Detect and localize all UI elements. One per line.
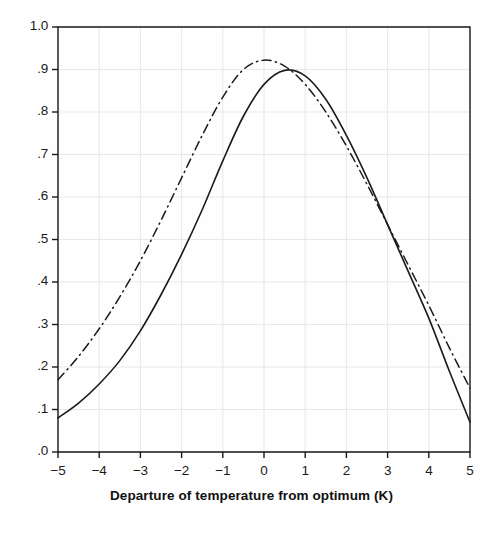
- x-tick-label: 1: [290, 463, 320, 478]
- y-tick-label: .2: [8, 358, 48, 373]
- x-tick-label: −4: [84, 463, 114, 478]
- chart-page: .0.1.2.3.4.5.6.7.8.91.0 −5−4−3−2−1012345…: [0, 0, 503, 537]
- gridlines: [58, 27, 470, 452]
- x-tick-label: −5: [43, 463, 73, 478]
- y-tick-label: .9: [8, 61, 48, 76]
- y-tick-label: .8: [8, 103, 48, 118]
- x-tick-label: −3: [125, 463, 155, 478]
- x-axis-title: Departure of temperature from optimum (K…: [0, 488, 503, 503]
- y-tick-label: .1: [8, 401, 48, 416]
- x-tick-label: 3: [373, 463, 403, 478]
- x-tick-label: 0: [249, 463, 279, 478]
- x-tick-label: 4: [414, 463, 444, 478]
- chart-canvas: [0, 0, 503, 537]
- x-tick-label: −1: [208, 463, 238, 478]
- x-tick-label: 2: [331, 463, 361, 478]
- y-tick-label: .4: [8, 273, 48, 288]
- y-tick-label: .0: [8, 443, 48, 458]
- y-tick-label: .3: [8, 316, 48, 331]
- x-tick-label: −2: [167, 463, 197, 478]
- axis-ticks: [52, 27, 470, 458]
- y-tick-label: .7: [8, 146, 48, 161]
- x-tick-label: 5: [455, 463, 485, 478]
- y-tick-label: .5: [8, 231, 48, 246]
- y-tick-label: .6: [8, 188, 48, 203]
- y-tick-label: 1.0: [8, 18, 48, 33]
